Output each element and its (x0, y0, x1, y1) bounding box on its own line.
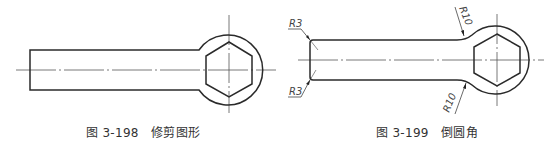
dimension-label-r3-top: R3 (289, 18, 302, 29)
dimension-label-r3-bottom: R3 (289, 86, 302, 97)
dimension-label-r10-bottom: R10 (441, 91, 459, 113)
figure-3-198-drawing (16, 15, 276, 113)
figure-3-199-drawing: R3 R3 R10 R10 (288, 5, 544, 114)
figure-caption-3-198: 图 3-198 修剪图形 (86, 123, 200, 140)
figure-caption-3-199: 图 3-199 倒圆角 (376, 123, 478, 140)
